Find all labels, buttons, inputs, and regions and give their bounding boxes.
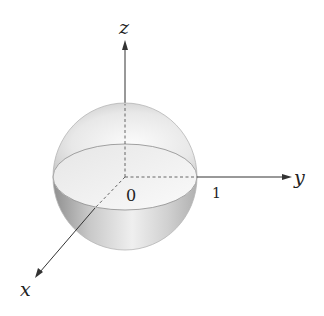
tick-label-one: 1 [212, 185, 221, 201]
x-axis [35, 208, 95, 278]
sphere-diagram: z y x 0 1 [0, 0, 324, 316]
x-axis-label: x [20, 278, 31, 300]
z-axis [122, 40, 128, 103]
z-arrow-icon [122, 40, 128, 50]
y-arrow-icon [282, 174, 292, 180]
origin-label: 0 [126, 186, 136, 205]
y-axis-label: y [293, 166, 305, 188]
z-axis-label: z [118, 16, 130, 38]
y-axis [197, 174, 292, 180]
